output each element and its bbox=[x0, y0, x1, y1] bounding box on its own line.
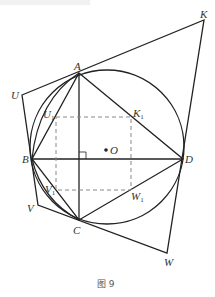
label-b: B bbox=[22, 153, 29, 165]
label-u1: U1 bbox=[43, 108, 55, 122]
label-w1: W1 bbox=[131, 190, 144, 204]
label-w: W bbox=[164, 256, 174, 268]
label-k1: K1 bbox=[132, 107, 144, 121]
label-v1: V1 bbox=[45, 183, 56, 197]
right-angle-mark bbox=[79, 152, 86, 159]
label-k: K bbox=[199, 8, 208, 20]
geometry-figure: A B C D O K U V W U1 K1 V1 W1 图 9 bbox=[0, 0, 215, 297]
label-u: U bbox=[11, 89, 20, 101]
figure-caption: 图 9 bbox=[97, 279, 115, 289]
outer-quadrilateral bbox=[22, 20, 204, 253]
dashed-rectangle bbox=[56, 117, 131, 190]
label-o: O bbox=[110, 144, 118, 156]
center-o-point bbox=[104, 148, 108, 152]
label-c: C bbox=[73, 224, 81, 236]
label-d: D bbox=[184, 153, 193, 165]
label-a: A bbox=[73, 60, 81, 72]
circle-o bbox=[30, 70, 184, 224]
label-v: V bbox=[27, 202, 35, 214]
